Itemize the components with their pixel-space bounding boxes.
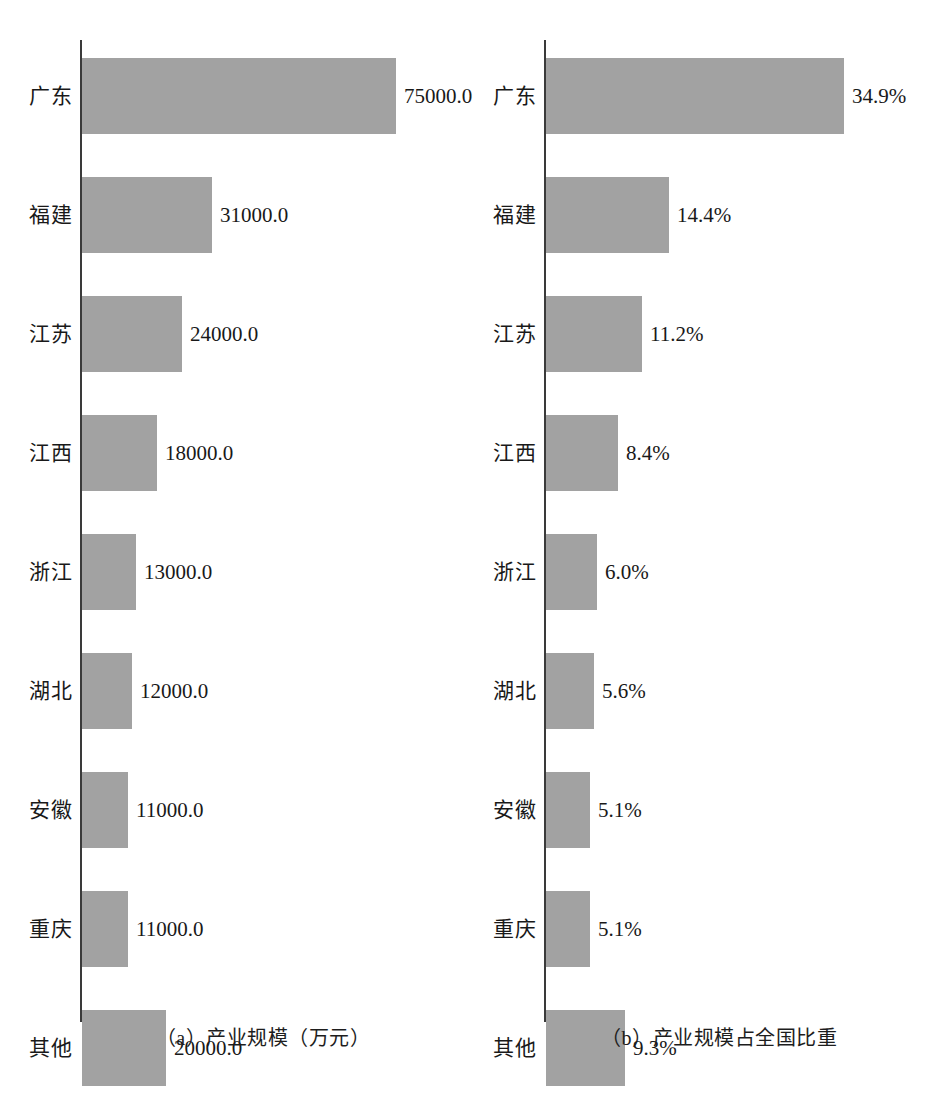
bar — [82, 653, 132, 729]
category-label: 重庆 — [466, 919, 544, 940]
bar-row: 湖北12000.0 — [0, 653, 466, 729]
category-label: 广东 — [466, 86, 544, 107]
category-label: 重庆 — [0, 919, 80, 940]
bar-value-label: 5.6% — [602, 681, 646, 702]
bar-row: 广东75000.0 — [0, 58, 466, 134]
bar-value-label: 31000.0 — [220, 205, 288, 226]
bar — [82, 772, 128, 848]
bar-row: 福建14.4% — [466, 177, 932, 253]
bar-row: 浙江6.0% — [466, 534, 932, 610]
panel-caption-b: （b）产业规模占全国比重 — [466, 1028, 932, 1048]
bar — [82, 891, 128, 967]
figure-two-bar-charts: 广东75000.0福建31000.0江苏24000.0江西18000.0浙江13… — [0, 0, 932, 1099]
bar-value-label: 11.2% — [650, 324, 703, 345]
bar-row: 江西18000.0 — [0, 415, 466, 491]
bar-value-label: 5.1% — [598, 919, 642, 940]
category-label: 安徽 — [466, 800, 544, 821]
bar — [546, 177, 669, 253]
bar — [82, 1010, 166, 1086]
bar — [82, 415, 157, 491]
bar-value-label: 8.4% — [626, 443, 670, 464]
bar — [546, 296, 642, 372]
bar — [546, 653, 594, 729]
plot-area-a: 广东75000.0福建31000.0江苏24000.0江西18000.0浙江13… — [0, 0, 466, 1099]
category-label: 广东 — [0, 86, 80, 107]
bar-row: 重庆5.1% — [466, 891, 932, 967]
category-label: 福建 — [0, 205, 80, 226]
bar-row: 江苏24000.0 — [0, 296, 466, 372]
bar-row: 重庆11000.0 — [0, 891, 466, 967]
bar-row: 湖北5.6% — [466, 653, 932, 729]
category-label: 浙江 — [466, 562, 544, 583]
bar — [82, 58, 396, 134]
bar — [546, 58, 844, 134]
bar-row: 广东34.9% — [466, 58, 932, 134]
bar — [546, 534, 597, 610]
bar-value-label: 11000.0 — [136, 919, 203, 940]
bar-value-label: 5.1% — [598, 800, 642, 821]
category-label: 浙江 — [0, 562, 80, 583]
category-label: 江苏 — [466, 324, 544, 345]
bar-value-label: 6.0% — [605, 562, 649, 583]
bar-value-label: 13000.0 — [144, 562, 212, 583]
bar — [546, 891, 590, 967]
panel-caption-a: （a）产业规模（万元） — [0, 1028, 496, 1048]
category-label: 湖北 — [466, 681, 544, 702]
bar — [546, 772, 590, 848]
bar-row: 江西8.4% — [466, 415, 932, 491]
bar-row: 浙江13000.0 — [0, 534, 466, 610]
chart-panel-b: 广东34.9%福建14.4%江苏11.2%江西8.4%浙江6.0%湖北5.6%安… — [466, 0, 932, 1099]
bar-row: 安徽5.1% — [466, 772, 932, 848]
bar — [82, 296, 182, 372]
chart-panel-a: 广东75000.0福建31000.0江苏24000.0江西18000.0浙江13… — [0, 0, 466, 1099]
bar-value-label: 24000.0 — [190, 324, 258, 345]
bar-value-label: 34.9% — [852, 86, 906, 107]
bar — [82, 534, 136, 610]
bar-value-label: 11000.0 — [136, 800, 203, 821]
plot-area-b: 广东34.9%福建14.4%江苏11.2%江西8.4%浙江6.0%湖北5.6%安… — [466, 0, 932, 1099]
category-label: 福建 — [466, 205, 544, 226]
bar-row: 安徽11000.0 — [0, 772, 466, 848]
bar-value-label: 12000.0 — [140, 681, 208, 702]
category-label: 江西 — [466, 443, 544, 464]
category-label: 安徽 — [0, 800, 80, 821]
bar-row: 江苏11.2% — [466, 296, 932, 372]
bar-value-label: 14.4% — [677, 205, 731, 226]
category-label: 江西 — [0, 443, 80, 464]
bar-row: 福建31000.0 — [0, 177, 466, 253]
bar-value-label: 18000.0 — [165, 443, 233, 464]
bar — [82, 177, 212, 253]
category-label: 湖北 — [0, 681, 80, 702]
bar-value-label: 75000.0 — [404, 86, 472, 107]
bar — [546, 415, 618, 491]
category-label: 江苏 — [0, 324, 80, 345]
